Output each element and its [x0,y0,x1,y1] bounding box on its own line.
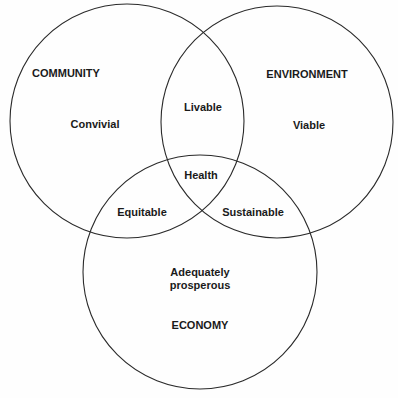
economy-quality-line-1: Adequately [170,266,231,279]
sustainable-label: Sustainable [222,206,284,219]
economy-quality: Adequately prosperous [170,266,231,292]
livable-label: Livable [184,101,222,114]
community-title: COMMUNITY [32,67,100,80]
venn-circles [0,0,398,398]
health-label: Health [184,169,218,182]
community-quality: Convivial [71,118,120,131]
environment-title: ENVIRONMENT [266,68,347,81]
equitable-label: Equitable [117,206,167,219]
venn-diagram: COMMUNITY Convivial ENVIRONMENT Viable L… [0,0,398,398]
community-circle [10,4,244,238]
economy-quality-line-2: prosperous [170,279,231,292]
environment-quality: Viable [293,119,325,132]
environment-circle [161,6,393,238]
economy-title: ECONOMY [172,319,229,332]
